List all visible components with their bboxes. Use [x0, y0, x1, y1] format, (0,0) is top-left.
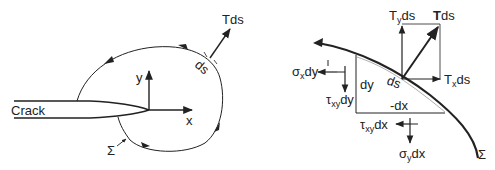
traction-arrow-icon	[210, 29, 230, 58]
contour-arrow-icon	[178, 44, 188, 50]
sigma-x-dy-label: σxdy	[292, 64, 319, 81]
sigma-y-dx-label: σydx	[399, 146, 426, 163]
ds-label-right: ds	[385, 73, 404, 92]
traction-element-diagram: Σ dy -dx ds Tyds Tds Txds σxdy τxydy τxy…	[292, 8, 486, 163]
contour-arrow-icon	[104, 56, 114, 64]
contour-pointer-icon	[117, 139, 126, 146]
crack-label: Crack	[11, 103, 45, 118]
contour-start-arrow-icon	[313, 38, 323, 47]
dy-label: dy	[360, 77, 374, 92]
tx-label: Txds	[444, 72, 471, 89]
y-axis-label: y	[136, 70, 143, 85]
ty-label: Tyds	[389, 8, 416, 25]
t-label: Tds	[433, 8, 455, 23]
traction-label: Tds	[222, 12, 244, 27]
x-axis-label: x	[186, 113, 193, 128]
ds-tick	[214, 60, 217, 64]
tau-xy-dy-label: τxydy	[326, 92, 354, 109]
j-integral-diagram: Crack ds Tds y x Σ Σ dy -dx	[0, 0, 495, 170]
crack-contour-diagram: Crack ds Tds y x Σ	[11, 12, 244, 158]
tau-xy-dx-label: τxydx	[360, 117, 388, 134]
ds-label: ds	[192, 57, 213, 78]
ds-tick	[204, 52, 207, 57]
contour-label: Σ	[107, 143, 115, 158]
contour-label-right: Σ	[478, 147, 486, 162]
t-arrow-icon	[402, 27, 438, 79]
dx-label: -dx	[390, 98, 409, 113]
